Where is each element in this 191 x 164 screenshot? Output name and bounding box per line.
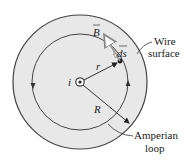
radius-r-label: r [96,60,101,72]
amperian-loop-label-line2: loop [145,142,165,154]
current-label: i [68,76,71,88]
radius-R-label: R [93,103,101,115]
amperian-loop-label-line1: Amperian [134,129,178,141]
current-out-of-page-icon [76,78,84,86]
wire-surface-label-line2: surface [148,47,180,59]
field-B-label: B [93,26,100,38]
path-element-ds-label: ds [117,47,127,59]
ampere-law-diagram: i r R B ds Wire surface Amperian loop [0,0,191,164]
wire-surface-label-line1: Wire [154,35,176,47]
